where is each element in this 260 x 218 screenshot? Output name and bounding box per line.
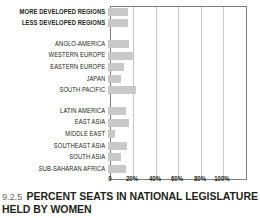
bar-cell <box>108 38 248 50</box>
category-label: SOUTH PACIFIC <box>8 87 108 93</box>
x-tick-label: 60% <box>171 176 183 183</box>
bar <box>108 119 129 127</box>
bar-row: SOUTHEAST ASIA <box>0 140 248 152</box>
bar-row: LESS DEVELOPED REGIONS <box>0 18 248 30</box>
bar-row: SOUTH PACIFIC <box>0 85 248 97</box>
caption-number: 9.2.5 <box>2 191 22 202</box>
bar-row: WESTERN EUROPE <box>0 50 248 62</box>
category-label: SUB-SAHARAN AFRICA <box>8 166 108 172</box>
bar-row: MIDDLE EAST <box>0 128 248 140</box>
bar-cell <box>108 152 248 164</box>
bar-row: MORE DEVELOPED REGIONS <box>0 6 248 18</box>
x-tick-label: 0 <box>108 176 111 183</box>
bar-row: EASTERN EUROPE <box>0 61 248 73</box>
category-label: LATIN AMERICA <box>8 108 108 114</box>
bar-cell <box>108 6 248 18</box>
category-label: SOUTHEAST ASIA <box>8 143 108 149</box>
bar-row: SOUTH ASIA <box>0 152 248 164</box>
bar-row: JAPAN <box>0 73 248 85</box>
bar <box>108 130 115 138</box>
x-axis: 020%40%60%80%100% <box>110 176 247 188</box>
bar-row: EAST ASIA <box>0 117 248 129</box>
bar <box>108 19 128 27</box>
bar-cell <box>108 163 248 175</box>
bar-cell <box>108 50 248 62</box>
chart-area: MORE DEVELOPED REGIONSLESS DEVELOPED REG… <box>0 6 260 182</box>
bar-cell <box>108 85 248 97</box>
bar-row: ANGLO-AMERICA <box>0 38 248 50</box>
x-tick-label: 80% <box>194 176 206 183</box>
category-label: MORE DEVELOPED REGIONS <box>8 9 108 15</box>
bar-cell <box>108 105 248 117</box>
bar <box>108 63 124 71</box>
bar <box>108 8 128 16</box>
bar-cell <box>108 128 248 140</box>
figure-percent-seats-women: MORE DEVELOPED REGIONSLESS DEVELOPED REG… <box>0 0 260 218</box>
x-tick-label: 40% <box>149 176 161 183</box>
bar-rows: MORE DEVELOPED REGIONSLESS DEVELOPED REG… <box>0 6 248 180</box>
figure-caption: 9.2.5 PERCENT SEATS IN NATIONAL LEGISLAT… <box>2 190 258 214</box>
category-label: MIDDLE EAST <box>8 131 108 137</box>
category-label: EAST ASIA <box>8 119 108 125</box>
bar-cell <box>108 117 248 129</box>
category-label: EASTERN EUROPE <box>8 64 108 70</box>
bar <box>108 40 129 48</box>
category-label: LESS DEVELOPED REGIONS <box>8 20 108 26</box>
bar <box>108 52 134 60</box>
bar-cell <box>108 18 248 30</box>
bar-cell <box>108 73 248 85</box>
category-label: ANGLO-AMERICA <box>8 41 108 47</box>
bar <box>108 75 121 83</box>
caption-title: PERCENT SEATS IN NATIONAL LEGISLATURE HE… <box>2 190 258 215</box>
row-spacer <box>0 96 248 105</box>
x-tick-label: 100% <box>214 176 230 183</box>
bar-cell <box>108 61 248 73</box>
bar <box>108 153 121 161</box>
category-label: JAPAN <box>8 76 108 82</box>
bar-row: LATIN AMERICA <box>0 105 248 117</box>
bar-cell <box>108 140 248 152</box>
bar <box>108 165 126 173</box>
row-spacer <box>0 29 248 38</box>
category-label: SOUTH ASIA <box>8 154 108 160</box>
bar <box>108 86 136 94</box>
x-tick-label: 20% <box>126 176 138 183</box>
bar <box>108 142 127 150</box>
bar <box>108 107 126 115</box>
bar-row: SUB-SAHARAN AFRICA <box>0 163 248 175</box>
category-label: WESTERN EUROPE <box>8 52 108 58</box>
